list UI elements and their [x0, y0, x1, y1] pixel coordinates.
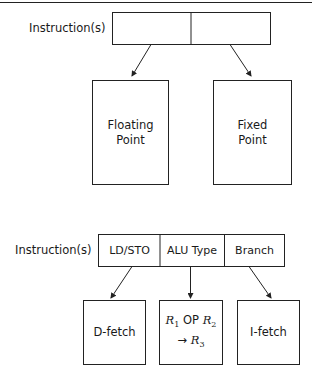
field-alu-type: ALU Type	[160, 235, 224, 266]
fixed-point-line1: Fixed	[238, 118, 268, 133]
op-label: OP	[183, 313, 199, 327]
d-fetch-label: D-fetch	[93, 325, 135, 340]
i-fetch-box: I-fetch	[237, 300, 300, 365]
top-field-1	[113, 13, 191, 44]
floating-point-box: Floating Point	[92, 80, 169, 185]
fixed-point-box: Fixed Point	[213, 80, 292, 185]
alu-expression: R1 OP R2 → R3	[166, 313, 217, 352]
i-fetch-label: I-fetch	[250, 325, 287, 340]
field-ld-sto: LD/STO	[99, 235, 160, 266]
top-row-label: Instruction(s)	[29, 21, 106, 35]
r1: R1	[166, 313, 180, 327]
alu-operation-box: R1 OP R2 → R3	[159, 300, 223, 365]
r3: R3	[191, 333, 205, 347]
floating-point-line2: Point	[116, 133, 145, 148]
top-field-2	[191, 13, 270, 44]
arrow-to-fixed-point	[230, 45, 251, 77]
field-branch: Branch	[225, 235, 284, 266]
arrow-to-i-fetch	[249, 267, 271, 299]
fixed-point-line2: Point	[238, 133, 267, 148]
d-fetch-box: D-fetch	[83, 300, 146, 365]
result-arrow-icon: →	[177, 333, 187, 347]
diagram-canvas: Instruction(s) Floating Point Fixed Poin…	[0, 0, 312, 377]
arrow-to-d-fetch	[111, 267, 132, 299]
arrow-to-floating-point	[132, 45, 151, 77]
floating-point-line1: Floating	[107, 118, 153, 133]
bottom-row-label: Instruction(s)	[15, 243, 92, 257]
r2: R2	[203, 313, 217, 327]
